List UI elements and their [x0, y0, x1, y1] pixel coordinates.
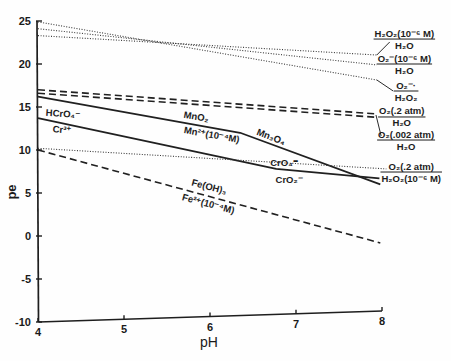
fraction-numerator: O₂⁻·	[396, 80, 416, 91]
fraction-numerator: O₂(.2 atm)	[379, 105, 424, 116]
fraction-denominator: H₂O	[393, 117, 411, 128]
y-tick-label: 20	[19, 58, 31, 70]
x-tick-label: 8	[379, 315, 385, 327]
boundary-line	[38, 29, 377, 65]
y-axis-line	[37, 21, 39, 322]
fraction-label: O₂(.2 atm)H₂O	[378, 105, 425, 128]
species-label: Cr³⁺	[52, 123, 71, 135]
fraction-numerator: O₂(.2 atm)	[389, 161, 434, 172]
fraction-denominator: H₂O	[397, 141, 415, 152]
y-tick-label: 0	[25, 230, 31, 242]
fraction-numerator: O₂(.002 atm)	[378, 129, 434, 140]
fraction-denominator: H₂O	[395, 65, 413, 76]
species-label: CrO₄⁼	[270, 157, 297, 168]
species-label: HCrO₄⁻	[45, 107, 80, 120]
fraction-label: O₂⁻·H₂O₂	[394, 80, 419, 103]
fraction-label: O₂(.2 atm)H₂O₂(10⁻⁶ M)	[380, 161, 442, 184]
axes: -10-5051015202545678	[15, 15, 385, 338]
y-tick-label: 25	[19, 15, 31, 27]
chart-canvas: -10-5051015202545678 HCrO₄⁻Cr³⁺MnO₂Mn²⁺(…	[0, 0, 451, 361]
labels-layer: HCrO₄⁻Cr³⁺MnO₂Mn²⁺(10⁻⁴M)Mn₃O₄CrO₄⁼CrO₂⁻…	[45, 28, 442, 216]
fraction-label: O₂⁻(10⁻⁶ M)H₂O	[377, 53, 432, 76]
y-tick-label: -5	[21, 273, 31, 285]
y-tick-label: -10	[15, 316, 31, 328]
fraction-label: H₂O₂(10⁻⁶ M)H₂O	[374, 28, 436, 51]
pe-ph-diagram: -10-5051015202545678 HCrO₄⁻Cr³⁺MnO₂Mn²⁺(…	[0, 0, 451, 361]
y-tick-label: 10	[19, 144, 31, 156]
y-tick-label: 15	[19, 101, 31, 113]
fraction-denominator: H₂O₂	[395, 92, 418, 103]
boundary-line	[38, 150, 380, 243]
boundary-line	[38, 90, 377, 114]
x-axis-title: pH	[200, 334, 218, 350]
y-tick-label: 5	[25, 187, 31, 199]
x-tick-label: 6	[207, 321, 213, 333]
fraction-denominator: H₂O₂(10⁻⁶ M)	[381, 173, 441, 184]
x-tick-label: 7	[293, 318, 299, 330]
leader-line	[377, 80, 393, 91]
fraction-denominator: H₂O	[395, 40, 413, 51]
x-tick-label: 5	[121, 323, 127, 335]
species-label: Fe(OH)₃	[190, 177, 228, 197]
x-tick-label: 4	[35, 326, 42, 338]
fraction-label: O₂(.002 atm)H₂O	[377, 129, 435, 152]
species-label: CrO₂⁻	[276, 174, 303, 185]
species-label: Fe²⁺(10⁻⁴M)	[181, 191, 236, 216]
boundary-line	[38, 22, 377, 80]
species-label: MnO₂	[183, 109, 210, 124]
fraction-numerator: H₂O₂(10⁻⁶ M)	[375, 28, 435, 39]
y-axis-title: pe	[4, 184, 19, 199]
boundary-line	[38, 36, 377, 55]
boundary-line	[38, 148, 386, 169]
fraction-numerator: O₂⁻(10⁻⁶ M)	[378, 53, 431, 64]
